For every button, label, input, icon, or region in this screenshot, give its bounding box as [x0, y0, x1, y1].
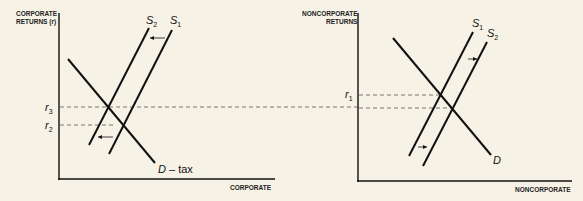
right-y-axis-title-line2: RETURNS	[326, 18, 358, 25]
right-panel-noncorporate: NONCORPORATE RETURNS NONCORPORATE r1 D S…	[302, 10, 572, 193]
right-x-axis-title: NONCORPORATE	[515, 186, 571, 193]
right-s1-label: S1	[472, 17, 483, 31]
left-supply-1-curve	[109, 30, 172, 154]
right-demand-label: D	[493, 154, 501, 166]
tax-incidence-diagram: CORPORATE RETURNS (r) CORPORATE r3 r2 D …	[0, 0, 583, 201]
left-s2-label: S2	[146, 14, 157, 28]
left-x-axis-title: CORPORATE	[230, 184, 272, 191]
left-supply-2-curve	[89, 28, 149, 145]
r2-label: r2	[45, 119, 53, 133]
r1-label: r1	[345, 88, 353, 102]
r3-label: r3	[45, 101, 53, 115]
right-y-axis-title-line1: NONCORPORATE	[302, 10, 358, 17]
right-demand-curve	[393, 38, 491, 155]
right-supply-2-curve	[423, 42, 487, 166]
left-panel-corporate: CORPORATE RETURNS (r) CORPORATE r3 r2 D …	[16, 10, 358, 191]
left-y-axis-title-line1: CORPORATE	[16, 10, 58, 17]
left-y-axis-title-line2: RETURNS (r)	[16, 18, 56, 26]
right-supply-1-curve	[409, 32, 473, 156]
left-s1-label: S1	[170, 14, 181, 28]
left-demand-label: D – tax	[158, 163, 193, 175]
right-s2-label: S2	[487, 27, 498, 41]
